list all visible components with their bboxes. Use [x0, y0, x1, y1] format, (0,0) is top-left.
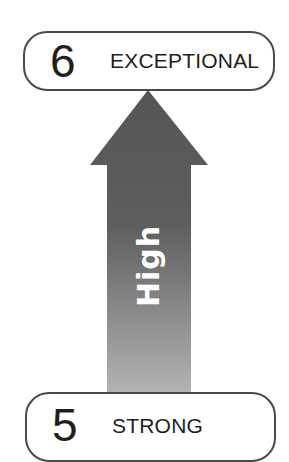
level-box-strong: 5 STRONG — [25, 392, 276, 462]
level-box-exceptional: 6 EXCEPTIONAL — [23, 31, 275, 91]
level-number: 5 — [52, 402, 100, 448]
arrow-label: High — [131, 225, 166, 307]
level-number: 6 — [50, 38, 98, 84]
level-label: STRONG — [112, 414, 203, 438]
level-label: EXCEPTIONAL — [110, 49, 259, 73]
